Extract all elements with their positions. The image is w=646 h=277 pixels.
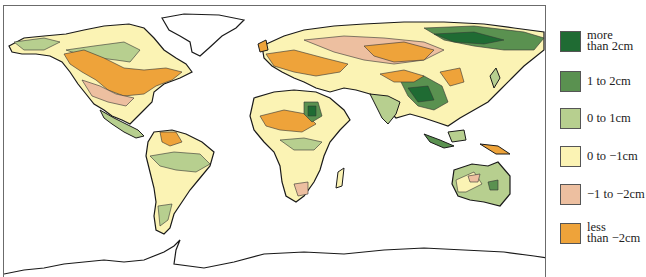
madagascar [336, 168, 344, 188]
legend-item-0-to-1cm: 0 to 1cm [560, 108, 631, 129]
legend-item-1-to-2cm: 1 to 2cm [560, 71, 631, 92]
world-map-graphic [4, 6, 546, 277]
uk [258, 40, 268, 52]
legend-label: less than −2cm [587, 222, 640, 244]
legend-item-less-than-minus-2cm: less than −2cm [560, 222, 640, 244]
legend-swatch [560, 184, 581, 205]
legend-swatch [560, 31, 581, 52]
legend-item-minus-1-to-minus-2cm: −1 to −2cm [560, 184, 645, 205]
legend-label: more than 2cm [587, 30, 633, 52]
legend-label: 0 to 1cm [587, 113, 631, 124]
legend-item-0-to-minus-1cm: 0 to −1cm [560, 146, 638, 167]
legend-item-more-than-2cm: more than 2cm [560, 30, 633, 52]
antarctica-coastline [4, 240, 546, 274]
legend-swatch [560, 146, 581, 167]
legend: more than 2cm 1 to 2cm 0 to 1cm 0 to −1c… [556, 0, 646, 276]
legend-label: 1 to 2cm [587, 76, 631, 87]
greenland [162, 14, 244, 56]
legend-label: −1 to −2cm [587, 189, 645, 200]
south-america [146, 130, 214, 234]
legend-swatch [560, 108, 581, 129]
world-map [3, 5, 546, 277]
legend-label: 0 to −1cm [587, 151, 638, 162]
legend-swatch [560, 71, 581, 92]
legend-swatch [560, 223, 581, 244]
